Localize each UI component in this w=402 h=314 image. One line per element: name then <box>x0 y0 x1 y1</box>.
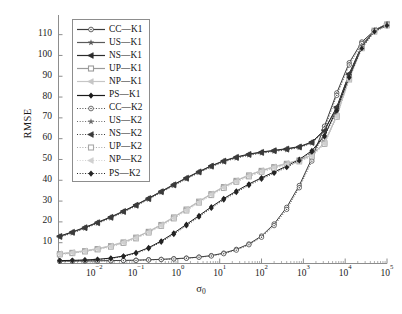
legend-label: NS—K1 <box>106 50 142 60</box>
data-point-circle-open <box>184 256 188 260</box>
data-point-star <box>88 39 94 45</box>
legend-label: UP—K1 <box>106 63 142 73</box>
data-point-triangle-left <box>88 131 94 137</box>
data-point-circle-open <box>310 159 314 163</box>
legend-item[interactable]: CC—K1 <box>76 22 145 35</box>
figure: RMSE σ0 102030405060708090100110 10−210−… <box>0 0 402 314</box>
data-point-circle-open <box>146 258 150 262</box>
data-point-triangle-left-filled <box>88 79 94 85</box>
plot-canvas <box>0 0 402 314</box>
data-point-triangle-left <box>88 53 94 59</box>
data-point-circle-open <box>272 223 276 227</box>
data-point-diamond-filled <box>134 250 139 256</box>
legend-item[interactable]: UP—K2 <box>76 140 145 153</box>
legend-swatch <box>76 48 106 61</box>
legend-label: US—K2 <box>106 115 142 125</box>
legend-swatch <box>76 74 106 87</box>
legend-swatch <box>76 127 106 140</box>
data-point-circle-open <box>89 106 94 111</box>
legend-item[interactable]: UP—K1 <box>76 61 145 74</box>
legend-item[interactable]: US—K2 <box>76 114 145 127</box>
legend-label: CC—K2 <box>106 102 143 112</box>
legend-swatch <box>76 114 106 127</box>
legend-label: NP—K2 <box>106 154 142 164</box>
legend-label: NP—K1 <box>106 76 142 86</box>
data-point-diamond-filled <box>88 92 93 98</box>
data-point-circle-open <box>247 243 251 247</box>
data-point-circle-open <box>197 255 201 259</box>
data-point-circle-open <box>285 207 289 211</box>
legend-item[interactable]: NS—K2 <box>76 127 145 140</box>
legend-item[interactable]: CC—K2 <box>76 101 145 114</box>
legend-item[interactable]: NS—K1 <box>76 48 145 61</box>
legend-label: US—K1 <box>106 37 142 47</box>
data-point-circle-open <box>335 93 339 97</box>
legend-swatch <box>76 166 106 179</box>
legend-label: UP—K2 <box>106 141 142 151</box>
data-point-circle-open <box>172 257 176 261</box>
legend-swatch <box>76 140 106 153</box>
legend-swatch <box>76 88 106 101</box>
legend-swatch <box>76 35 106 48</box>
legend-item[interactable]: PS—K2 <box>76 166 145 179</box>
data-point-circle-open <box>209 254 213 258</box>
data-point-triangle-left-filled <box>88 158 94 164</box>
chart-svg <box>0 0 402 314</box>
legend-swatch <box>76 61 106 74</box>
data-point-square-open <box>89 145 94 150</box>
legend-label: NS—K2 <box>106 128 142 138</box>
data-point-circle-open <box>259 235 263 239</box>
legend-swatch <box>76 22 106 35</box>
data-point-star <box>88 118 94 124</box>
data-point-circle-open <box>89 27 94 32</box>
data-point-diamond-filled <box>88 170 93 176</box>
legend-label: PS—K1 <box>106 89 141 99</box>
legend-item[interactable]: PS—K1 <box>76 87 145 100</box>
legend: CC—K1US—K1NS—K1UP—K1NP—K1PS—K1CC—K2US—K2… <box>72 19 150 182</box>
data-point-circle-open <box>347 63 351 67</box>
legend-item[interactable]: NP—K1 <box>76 74 145 87</box>
legend-label: CC—K1 <box>106 24 143 34</box>
legend-label: PS—K2 <box>106 168 141 178</box>
data-point-circle-open <box>159 257 163 261</box>
legend-swatch <box>76 101 106 114</box>
legend-item[interactable]: NP—K2 <box>76 153 145 166</box>
data-point-square-open <box>89 66 94 71</box>
data-point-circle-open <box>134 258 138 262</box>
legend-swatch <box>76 153 106 166</box>
data-point-circle-open <box>234 248 238 252</box>
data-point-circle-open <box>222 252 226 256</box>
legend-item[interactable]: US—K1 <box>76 35 145 48</box>
data-point-circle-open <box>297 186 301 190</box>
